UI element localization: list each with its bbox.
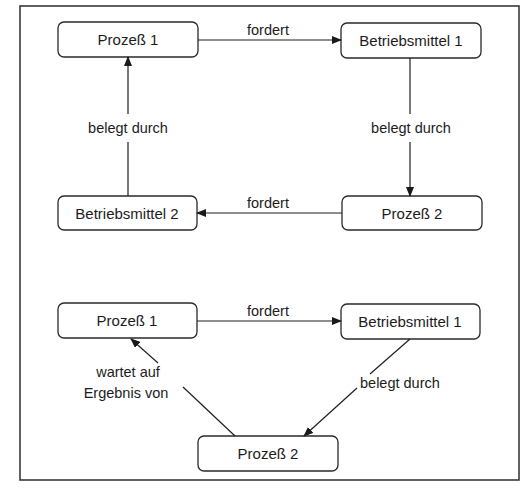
- top-node-prozess-1: Prozeß 1: [58, 22, 198, 57]
- top-cycle-diagram: Prozeß 1 Betriebsmittel 1 Betriebsmittel…: [58, 22, 482, 230]
- bottom-node-betriebsmittel-1: Betriebsmittel 1: [341, 304, 480, 339]
- bottom-edge-p1-fordert-bm1: fordert: [197, 303, 341, 321]
- top-edge-bm1-belegt-p2: belegt durch: [371, 58, 451, 196]
- edge-label-line-2: Ergebnis von: [84, 385, 169, 401]
- node-label: Prozeß 1: [98, 31, 159, 48]
- deadlock-diagram: Prozeß 1 Betriebsmittel 1 Betriebsmittel…: [0, 0, 525, 489]
- edge-label: belegt durch: [360, 375, 440, 391]
- top-edge-p2-fordert-bm2: fordert: [197, 195, 342, 213]
- node-label: Prozeß 1: [97, 312, 158, 329]
- bottom-node-prozess-2: Prozeß 2: [198, 436, 338, 471]
- bottom-edge-bm1-belegt-p2: belegt durch: [304, 339, 440, 436]
- edge-label: fordert: [247, 22, 289, 38]
- top-node-betriebsmittel-2: Betriebsmittel 2: [58, 196, 197, 230]
- top-edge-p1-fordert-bm1: fordert: [198, 22, 341, 40]
- bottom-edge-p2-wartet-p1: wartet auf Ergebnis von: [84, 339, 235, 436]
- edge-label: belegt durch: [88, 120, 168, 136]
- outer-frame: [20, 6, 519, 480]
- node-label: Prozeß 2: [238, 445, 299, 462]
- node-label: Betriebsmittel 2: [75, 205, 178, 222]
- bottom-cycle-diagram: Prozeß 1 Betriebsmittel 1 Prozeß 2 forde…: [58, 303, 480, 471]
- node-label: Betriebsmittel 1: [358, 313, 461, 330]
- node-label: Betriebsmittel 1: [359, 32, 462, 49]
- edge-label: belegt durch: [371, 120, 451, 136]
- edge-label: fordert: [247, 195, 289, 211]
- bottom-node-prozess-1: Prozeß 1: [58, 303, 197, 338]
- edge-label-line-1: wartet auf: [95, 364, 161, 380]
- node-label: Prozeß 2: [382, 205, 443, 222]
- edge-label: fordert: [247, 303, 289, 319]
- top-node-betriebsmittel-1: Betriebsmittel 1: [341, 23, 481, 58]
- top-node-prozess-2: Prozeß 2: [342, 196, 482, 230]
- top-edge-bm2-belegt-p1: belegt durch: [88, 57, 168, 196]
